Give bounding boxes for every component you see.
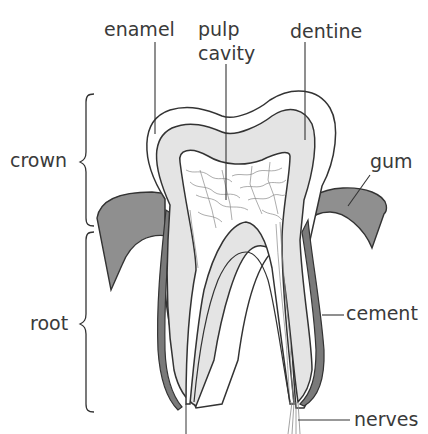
label-cavity: cavity (198, 42, 255, 64)
label-root: root (30, 312, 68, 334)
label-nerves: nerves (354, 408, 418, 430)
label-pulp: pulp (198, 18, 239, 40)
label-enamel: enamel (104, 18, 175, 40)
label-cement: cement (346, 302, 418, 324)
crown-brace (80, 94, 94, 226)
tooth-diagram: enamel pulp cavity dentine crown gum roo… (0, 0, 428, 434)
tooth-illustration: enamel pulp cavity dentine crown gum roo… (0, 0, 428, 434)
label-gum: gum (370, 150, 413, 172)
label-crown: crown (10, 149, 67, 171)
gum-left (97, 192, 170, 290)
label-dentine: dentine (290, 20, 362, 42)
root-brace (80, 232, 94, 412)
nerves-bundle (288, 402, 300, 434)
